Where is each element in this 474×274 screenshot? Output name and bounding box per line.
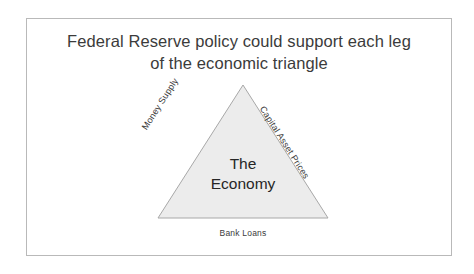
slide-canvas: Federal Reserve policy could support eac… (0, 0, 474, 274)
triangle-shape (140, 76, 346, 228)
economic-triangle-diagram: The Economy Money Supply Capital Asset P… (140, 76, 346, 228)
slide-title-line-2: of the economic triangle (26, 52, 452, 74)
triangle-base-label: Bank Loans (140, 228, 346, 239)
slide-title-line-1: Federal Reserve policy could support eac… (26, 30, 452, 52)
center-label-line-2: Economy (193, 174, 293, 194)
triangle-polygon (158, 85, 328, 218)
center-label-line-1: The (193, 154, 293, 174)
slide-title: Federal Reserve policy could support eac… (26, 30, 452, 74)
triangle-center-label: The Economy (193, 154, 293, 194)
